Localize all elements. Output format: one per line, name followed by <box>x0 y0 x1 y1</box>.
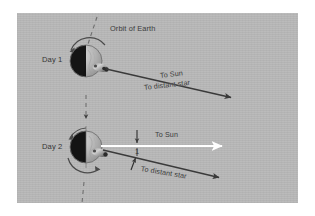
orbit-of-earth-label: Orbit of Earth <box>110 25 155 32</box>
day1-label: Day 1 <box>42 56 62 64</box>
day2-label: Day 2 <box>42 143 62 151</box>
to-sun-label-day1: To Sun <box>160 69 184 79</box>
to-sun-label-day2: To Sun <box>155 131 178 138</box>
earth-globe-day1 <box>70 45 102 77</box>
angle-value-label: 1 <box>135 148 139 155</box>
astronomy-diagram-figure: Orbit of Earth Day 1 To Sun To distant s… <box>0 0 315 216</box>
diagram-vector-layer <box>0 0 315 216</box>
